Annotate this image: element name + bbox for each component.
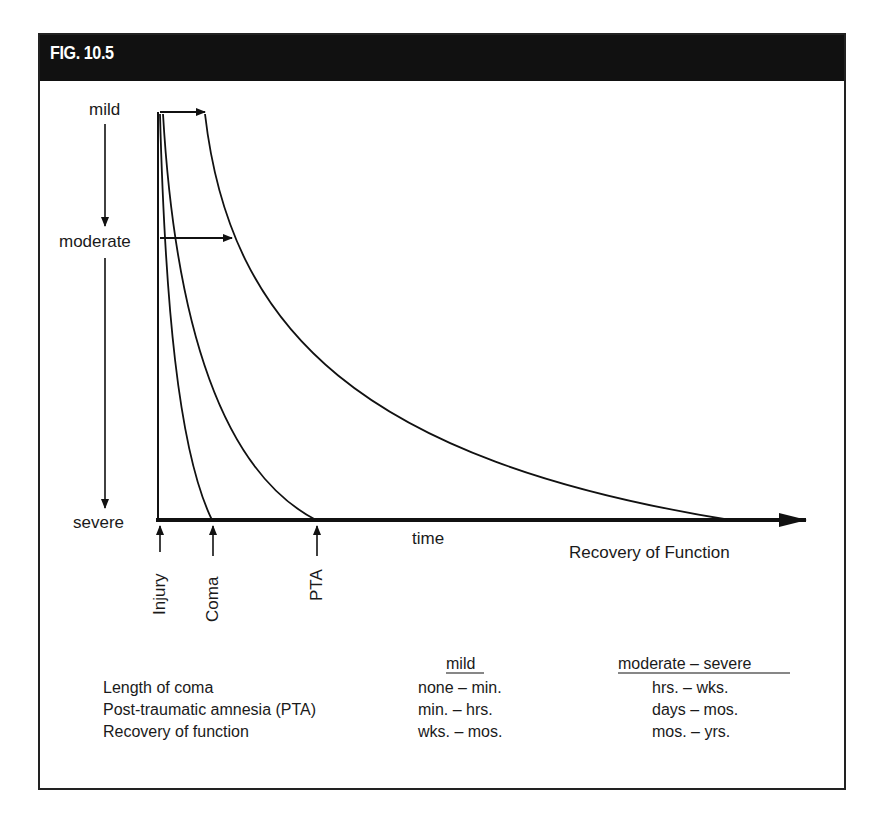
table-row-label: Post-traumatic amnesia (PTA) bbox=[103, 701, 316, 719]
table-row-label: Recovery of function bbox=[103, 723, 249, 741]
table-header-mild: mild bbox=[446, 655, 475, 673]
table-cell-moderate-severe: mos. – yrs. bbox=[652, 723, 730, 741]
table-cell-mild: min. – hrs. bbox=[418, 701, 493, 719]
pta-curve bbox=[163, 114, 316, 520]
table-cell-mild: wks. – mos. bbox=[418, 723, 502, 741]
table-cell-moderate-severe: hrs. – wks. bbox=[652, 679, 728, 697]
table-cell-mild: none – min. bbox=[418, 679, 502, 697]
recovery-curve bbox=[205, 114, 730, 520]
severity-label-moderate: moderate bbox=[59, 232, 131, 252]
time-axis-label: time bbox=[412, 529, 444, 549]
marker-label-coma: Coma bbox=[203, 577, 223, 622]
table-row-label: Length of coma bbox=[103, 679, 213, 697]
severity-label-mild: mild bbox=[89, 100, 120, 120]
recovery-of-function-label: Recovery of Function bbox=[569, 543, 730, 563]
table-cell-moderate-severe: days – mos. bbox=[652, 701, 738, 719]
table-header-moderate-severe: moderate – severe bbox=[618, 655, 751, 673]
severity-label-severe: severe bbox=[73, 513, 124, 533]
marker-label-pta: PTA bbox=[307, 569, 327, 601]
marker-label-injury: Injury bbox=[150, 573, 170, 615]
